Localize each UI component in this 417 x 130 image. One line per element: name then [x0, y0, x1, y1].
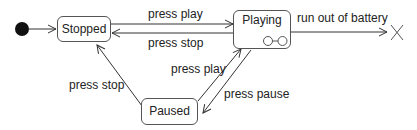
transition-label: press play [148, 8, 203, 20]
state-label: Stopped [62, 22, 107, 36]
transition-label: press stop [148, 37, 203, 49]
state-playing: Playing [233, 10, 291, 49]
transition-label: press play [171, 63, 226, 75]
transition-label: press pause [224, 88, 289, 100]
transition-label: press stop [69, 79, 124, 91]
transition-label: run out of battery [297, 12, 388, 24]
arrow-paused-stopped [97, 45, 142, 106]
state-label: Paused [149, 104, 190, 118]
state-paused: Paused [141, 98, 198, 125]
initial-node-icon [15, 22, 29, 36]
arrow-playing-paused [203, 50, 251, 113]
terminate-icon [391, 25, 403, 40]
state-stopped: Stopped [57, 16, 111, 42]
state-label: Playing [242, 13, 281, 27]
